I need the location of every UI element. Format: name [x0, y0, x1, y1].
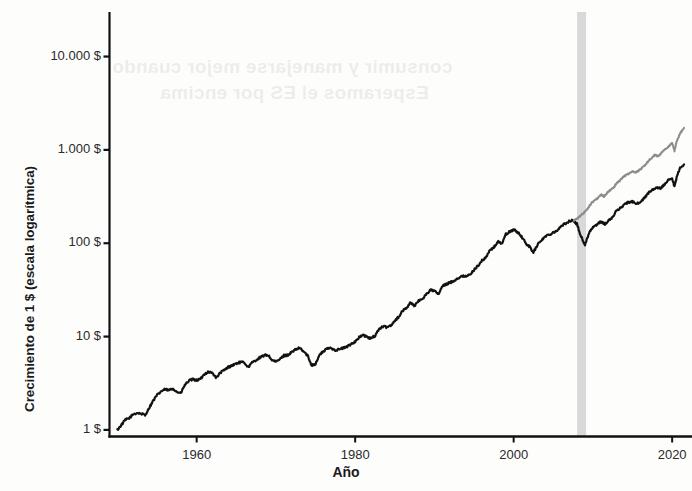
- x-axis-tick-label: 1980: [315, 447, 395, 462]
- plot-area: [0, 0, 692, 491]
- x-axis-tick-label: 2020: [632, 447, 692, 462]
- y-axis-tick-label-text: 10.000 $: [17, 48, 101, 63]
- data-line-serie-negra: [117, 164, 684, 430]
- data-series-layer: [117, 128, 684, 430]
- x-axis-tick-label: 2000: [474, 447, 554, 462]
- y-axis-tick-label-text: 1 $: [17, 421, 101, 436]
- axis-tick-layer: [104, 57, 673, 443]
- chart-figure: consumir y manejarse mejor cuando Espera…: [0, 0, 692, 491]
- y-axis-tick-label-text: 100 $: [17, 234, 101, 249]
- x-axis-tick-label: 1960: [157, 447, 237, 462]
- recession-band-layer: [577, 12, 586, 437]
- y-axis-tick-label-text: 10 $: [17, 328, 101, 343]
- data-line-serie-gris: [574, 128, 684, 221]
- y-axis-tick-label-text: 1.000 $: [17, 141, 101, 156]
- recession-band: [577, 12, 586, 437]
